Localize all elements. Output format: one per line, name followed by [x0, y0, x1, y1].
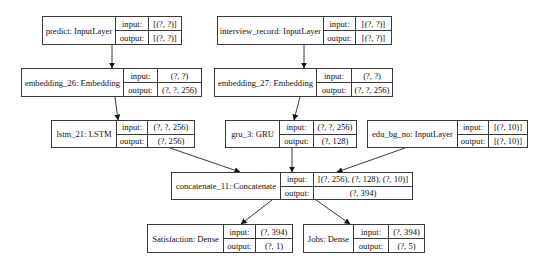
- layer-node-predict: predict: InputLayer input: output: [(?, …: [42, 16, 182, 45]
- edge-edu-bg-no-to-concatenate-11: [337, 148, 405, 172]
- layer-name: predict: InputLayer: [43, 17, 116, 44]
- layer-name: gru_3: GRU: [226, 121, 280, 147]
- input-shape: (?, ?, 256): [314, 121, 356, 135]
- input-shape: [(?, ?)]: [149, 17, 181, 31]
- layer-name: Satisfaction: Dense: [148, 225, 224, 252]
- input-shape: [(?, 10)]: [489, 121, 527, 135]
- port-labels: input: output:: [324, 17, 356, 44]
- layer-node-embedding-26: embedding_26: Embedding input: output: (…: [21, 68, 202, 97]
- edge-lstm-21-to-concatenate-11: [170, 148, 240, 172]
- input-shape: (?, ?): [352, 69, 392, 83]
- layer-name: Jobs: Dense: [304, 225, 354, 252]
- input-label: input:: [116, 17, 148, 31]
- layer-node-interview-record: interview_record: InputLayer input: outp…: [217, 16, 392, 45]
- port-labels: input: output:: [458, 121, 489, 147]
- output-shape: (?, 128): [314, 135, 356, 148]
- output-shape: [(?, ?)]: [149, 31, 181, 44]
- layer-node-satisfaction: Satisfaction: Dense input: output: (?, 3…: [147, 224, 293, 253]
- port-shapes: (?, ?) (?, ?, 256): [352, 69, 392, 96]
- output-label: output:: [281, 187, 313, 200]
- output-shape: (?, 256): [148, 135, 194, 148]
- layer-name: edu_bg_no: InputLayer: [368, 121, 458, 147]
- output-label: output:: [116, 31, 148, 44]
- output-shape: (?, 1): [256, 239, 292, 252]
- port-labels: input: output:: [281, 173, 314, 199]
- input-shape: [(?, ?)]: [356, 17, 391, 31]
- port-labels: input: output:: [116, 17, 149, 44]
- output-shape: (?, 394): [314, 187, 412, 200]
- input-label: input:: [117, 121, 147, 135]
- edge-embedding-27-to-gru-3: [294, 97, 300, 120]
- layer-name: embedding_27: Embedding: [215, 69, 317, 96]
- layer-node-concatenate-11: concatenate_11: Concatenate input: outpu…: [171, 172, 413, 200]
- layer-node-embedding-27: embedding_27: Embedding input: output: (…: [214, 68, 393, 97]
- layer-node-jobs: Jobs: Dense input: output: (?, 394) (?, …: [303, 224, 425, 253]
- input-label: input:: [354, 225, 388, 239]
- port-labels: input: output:: [124, 69, 158, 96]
- input-label: input:: [458, 121, 488, 135]
- input-shape: (?, ?): [158, 69, 201, 83]
- output-label: output:: [124, 83, 157, 96]
- port-labels: input: output:: [354, 225, 389, 252]
- port-shapes: [(?, ?)] [(?, ?)]: [149, 17, 181, 44]
- port-shapes: [(?, ?)] [(?, ?)]: [356, 17, 391, 44]
- input-shape: (?, ?, 256): [148, 121, 194, 135]
- input-shape: (?, 394): [389, 225, 424, 239]
- edge-embedding-26-to-lstm-21: [115, 97, 118, 120]
- output-shape: [(?, 10)]: [489, 135, 527, 148]
- output-label: output:: [224, 239, 255, 252]
- output-shape: (?, 5): [389, 239, 424, 252]
- input-label: input:: [280, 121, 313, 135]
- port-shapes: [(?, 10)] [(?, 10)]: [489, 121, 527, 147]
- output-shape: (?, ?, 256): [352, 83, 392, 96]
- port-labels: input: output:: [117, 121, 148, 147]
- input-label: input:: [324, 17, 355, 31]
- layer-node-lstm-21: lstm_21: LSTM input: output: (?, ?, 256)…: [51, 120, 195, 148]
- model-diagram: predict: InputLayer input: output: [(?, …: [0, 0, 550, 272]
- output-label: output:: [317, 83, 351, 96]
- output-shape: [(?, ?)]: [356, 31, 391, 44]
- port-labels: input: output:: [317, 69, 352, 96]
- layer-name: embedding_26: Embedding: [22, 69, 124, 96]
- output-shape: (?, ?, 256): [158, 83, 201, 96]
- layer-name: concatenate_11: Concatenate: [172, 173, 281, 199]
- output-label: output:: [324, 31, 355, 44]
- port-shapes: (?, 394) (?, 5): [389, 225, 424, 252]
- layer-node-edu-bg-no: edu_bg_no: InputLayer input: output: [(?…: [367, 120, 528, 148]
- output-label: output:: [458, 135, 488, 148]
- input-label: input:: [317, 69, 351, 83]
- layer-name: lstm_21: LSTM: [52, 121, 117, 147]
- edge-concatenate-11-to-satisfaction: [241, 200, 272, 224]
- port-shapes: (?, ?, 256) (?, 256): [148, 121, 194, 147]
- output-label: output:: [117, 135, 147, 148]
- edge-concatenate-11-to-jobs: [316, 200, 350, 224]
- port-shapes: (?, ?) (?, ?, 256): [158, 69, 201, 96]
- input-label: input:: [224, 225, 255, 239]
- port-shapes: (?, 394) (?, 1): [256, 225, 292, 252]
- input-shape: (?, 394): [256, 225, 292, 239]
- output-label: output:: [280, 135, 313, 148]
- port-shapes: (?, ?, 256) (?, 128): [314, 121, 356, 147]
- port-labels: input: output:: [224, 225, 256, 252]
- input-label: input:: [281, 173, 313, 187]
- port-labels: input: output:: [280, 121, 314, 147]
- input-label: input:: [124, 69, 157, 83]
- input-shape: [(?, 256), (?, 128), (?, 10)]: [314, 173, 412, 187]
- output-label: output:: [354, 239, 388, 252]
- layer-name: interview_record: InputLayer: [218, 17, 324, 44]
- port-shapes: [(?, 256), (?, 128), (?, 10)] (?, 394): [314, 173, 412, 199]
- layer-node-gru-3: gru_3: GRU input: output: (?, ?, 256) (?…: [225, 120, 357, 148]
